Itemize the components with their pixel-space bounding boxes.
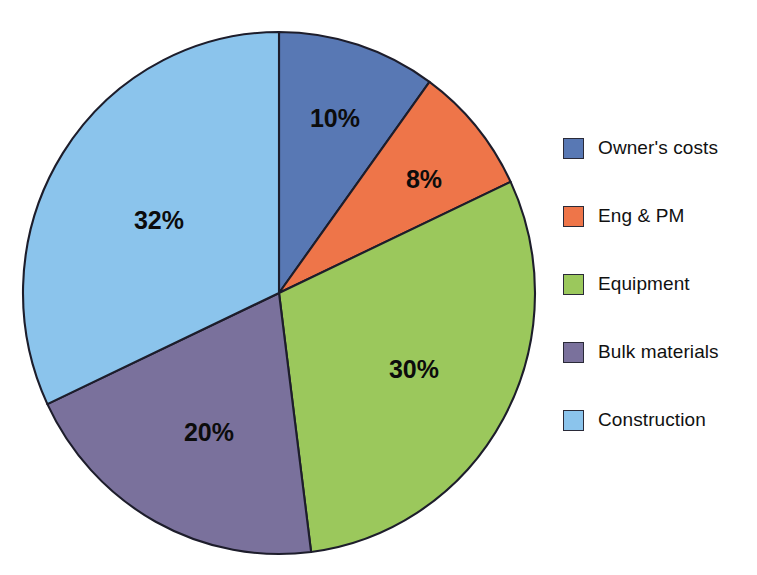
- legend-item[interactable]: Equipment: [563, 272, 753, 296]
- pie-slice-label: 20%: [184, 418, 234, 446]
- legend-color-swatch: [563, 138, 584, 159]
- legend-item[interactable]: Bulk materials: [563, 340, 753, 364]
- legend-item-label: Bulk materials: [598, 341, 719, 363]
- legend-item-label: Construction: [598, 409, 706, 431]
- pie-svg: 10%8%30%20%32%: [16, 26, 546, 564]
- legend-item[interactable]: Eng & PM: [563, 204, 753, 228]
- legend-color-swatch: [563, 410, 584, 431]
- chart-legend: Owner's costsEng & PMEquipmentBulk mater…: [563, 136, 753, 432]
- pie-slice-label: 32%: [134, 206, 184, 234]
- legend-item[interactable]: Construction: [563, 408, 753, 432]
- clipped-top-text: [0, 0, 757, 14]
- pie-chart-figure: 10%8%30%20%32% Owner's costsEng & PMEqui…: [0, 0, 757, 575]
- legend-item-label: Eng & PM: [598, 205, 684, 227]
- legend-item-label: Owner's costs: [598, 137, 718, 159]
- legend-item[interactable]: Owner's costs: [563, 136, 753, 160]
- legend-item-label: Equipment: [598, 273, 690, 295]
- legend-color-swatch: [563, 274, 584, 295]
- legend-color-swatch: [563, 342, 584, 363]
- pie-plot-area: 10%8%30%20%32%: [16, 26, 546, 564]
- pie-slices-group: [23, 32, 535, 554]
- pie-slice-label: 30%: [389, 355, 439, 383]
- pie-slice-label: 10%: [310, 104, 360, 132]
- legend-color-swatch: [563, 206, 584, 227]
- pie-slice-label: 8%: [406, 165, 442, 193]
